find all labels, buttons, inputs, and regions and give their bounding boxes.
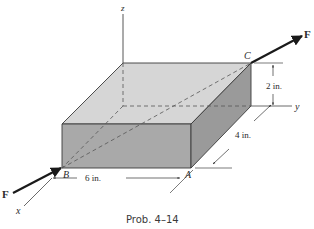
block-force-diagram: z y x F C F B A 6 in. 4 in. <box>0 0 314 229</box>
dimension-length: 6 in. <box>53 170 193 193</box>
point-label-c: C <box>244 50 251 61</box>
z-axis-label: z <box>120 3 125 13</box>
y-axis-label: y <box>294 101 300 112</box>
x-axis <box>24 178 52 206</box>
figure-caption: Prob. 4–14 <box>126 214 179 225</box>
force-arrow-b <box>13 168 61 193</box>
force-arrow-c <box>251 36 302 63</box>
force-label-c: F <box>304 28 311 40</box>
dimension-length-label: 6 in. <box>85 173 101 183</box>
point-label-a: A <box>184 169 192 180</box>
dimension-width-label: 4 in. <box>235 130 251 140</box>
front-face <box>62 124 191 168</box>
x-axis-label: x <box>15 205 21 216</box>
dimension-height-label: 2 in. <box>266 81 282 91</box>
force-label-b: F <box>2 188 9 200</box>
dimension-height: 2 in. <box>254 63 283 105</box>
